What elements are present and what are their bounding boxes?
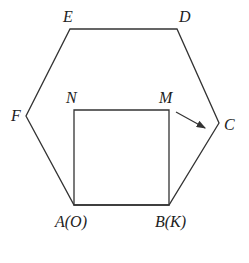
label-n: N — [65, 89, 78, 106]
geometry-diagram: E D F C N M A(O) B(K) — [0, 0, 249, 263]
label-m: M — [158, 89, 174, 106]
label-b-k: B(K) — [155, 213, 186, 231]
label-d: D — [178, 8, 191, 25]
rotation-arrow — [176, 112, 205, 128]
label-c: C — [224, 116, 235, 133]
label-e: E — [62, 8, 73, 25]
hexagon-abcdef — [26, 29, 219, 205]
label-f: F — [10, 107, 21, 124]
square-abmn — [74, 110, 169, 205]
label-a-o: A(O) — [54, 213, 87, 231]
